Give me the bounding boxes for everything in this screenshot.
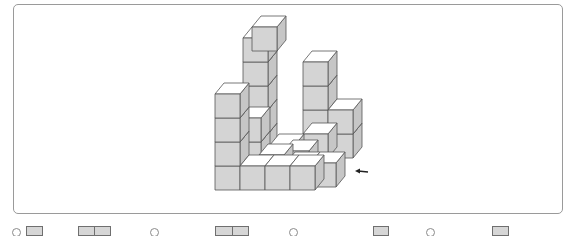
option-view-figure	[26, 226, 43, 236]
cube	[290, 155, 324, 190]
option-view-figure	[492, 226, 509, 236]
cube-stack-figure	[0, 0, 568, 236]
view-cell	[95, 227, 110, 235]
option-radio-b[interactable]	[150, 228, 159, 236]
view-cell	[233, 227, 249, 235]
option-radio-c[interactable]	[289, 228, 298, 236]
cube	[252, 16, 286, 51]
cube-front-face	[215, 166, 240, 190]
option-view-figure	[215, 226, 249, 236]
cube-front-face	[290, 166, 315, 190]
option-view-figure	[373, 226, 389, 236]
view-cell	[374, 227, 388, 235]
option-radio-a[interactable]	[12, 228, 21, 236]
view-cell	[79, 227, 95, 235]
cube-front-face	[243, 62, 268, 86]
cube-front-face	[215, 118, 240, 142]
arrow-head-icon	[355, 169, 360, 174]
cube-front-face	[303, 62, 328, 86]
cube	[303, 51, 337, 86]
cube-front-face	[215, 142, 240, 166]
cube	[215, 83, 249, 118]
answer-options-row	[0, 226, 568, 236]
view-cell	[493, 227, 508, 235]
option-radio-d[interactable]	[426, 228, 435, 236]
cube-front-face	[265, 166, 290, 190]
view-cell	[27, 227, 42, 235]
cube-front-face	[252, 27, 277, 51]
cube-front-face	[303, 86, 328, 110]
view-cell	[216, 227, 233, 235]
cube-front-face	[215, 94, 240, 118]
option-view-figure	[78, 226, 111, 236]
cube-front-face	[240, 166, 265, 190]
